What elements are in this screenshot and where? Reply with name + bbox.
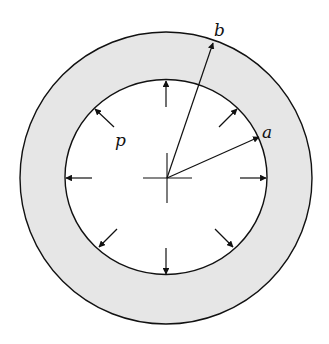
label-p: p	[115, 130, 126, 150]
label-a: a	[262, 122, 272, 142]
label-b: b	[214, 20, 225, 40]
cylinder-diagram: b a p	[0, 0, 329, 344]
